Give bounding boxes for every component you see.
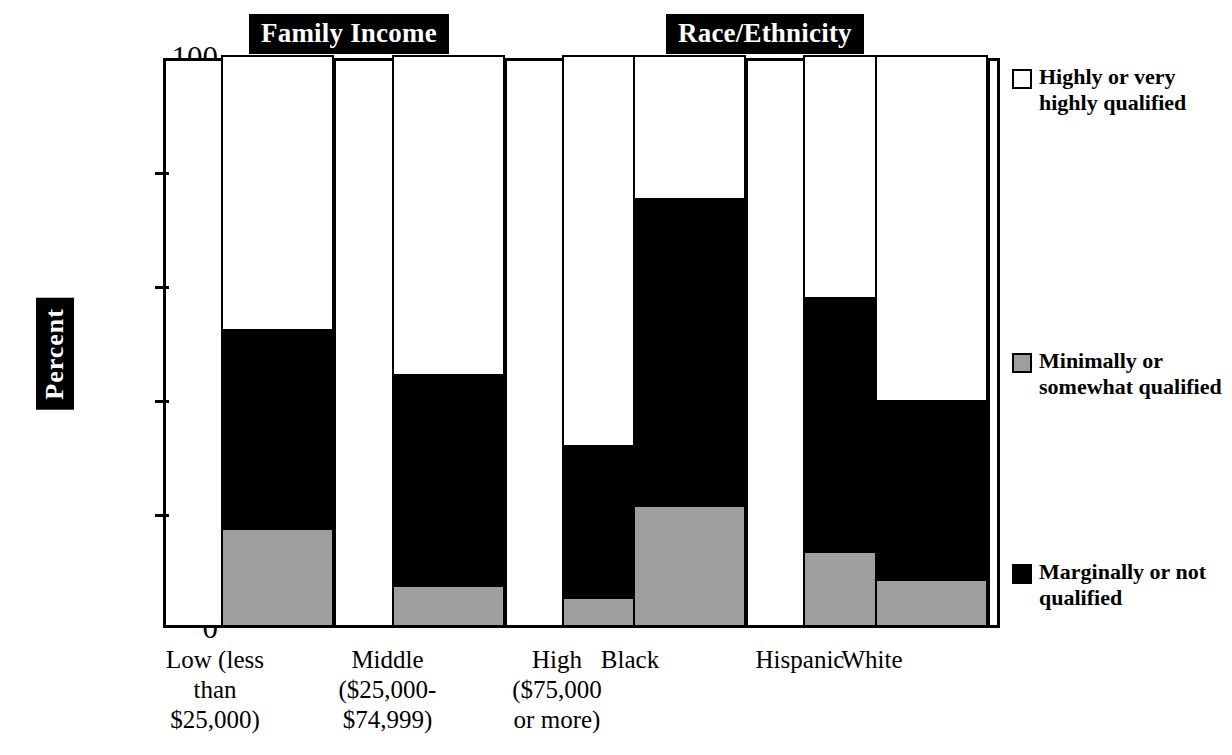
legend-item-marginally-qualified[interactable]: Marginally or not qualified bbox=[1012, 559, 1206, 611]
bar-white[interactable] bbox=[875, 55, 988, 625]
legend-label-line: somewhat qualified bbox=[1039, 374, 1222, 399]
column-divider bbox=[505, 61, 507, 625]
legend-item-minimally-qualified[interactable]: Minimally or somewhat qualified bbox=[1012, 348, 1222, 400]
column-divider bbox=[334, 61, 336, 625]
legend-label-line: highly qualified bbox=[1039, 90, 1186, 115]
segment-minimally-somewhat-qualified bbox=[392, 585, 505, 625]
bar-black[interactable] bbox=[633, 55, 746, 625]
plot-area bbox=[163, 58, 1000, 628]
x-label-line: ($25,000- bbox=[320, 675, 455, 705]
y-axis-title: Percent bbox=[36, 298, 74, 410]
y-tick-mark-40 bbox=[155, 400, 169, 403]
x-label-line: $25,000) bbox=[150, 705, 280, 735]
segment-highly-qualified bbox=[875, 55, 988, 400]
x-label-line: or more) bbox=[492, 705, 622, 735]
x-label-white: White bbox=[807, 645, 937, 675]
legend-swatch-black-icon bbox=[1012, 564, 1032, 584]
segment-minimally-somewhat-qualified bbox=[875, 579, 988, 625]
x-label-line: ($75,000 bbox=[492, 675, 622, 705]
bar-middle-income[interactable] bbox=[392, 55, 505, 625]
x-label-middle-income: Middle ($25,000- $74,999) bbox=[320, 645, 455, 735]
x-label-line: White bbox=[807, 645, 937, 675]
y-tick-mark-80 bbox=[155, 172, 169, 175]
y-tick-mark-60 bbox=[155, 286, 169, 289]
group-banner-family-income: Family Income bbox=[249, 14, 449, 54]
column-divider bbox=[988, 61, 990, 625]
segment-minimally-somewhat-qualified bbox=[633, 505, 746, 625]
legend-label-highly-qualified: Highly or very highly qualified bbox=[1039, 64, 1186, 116]
x-label-line: Low (less bbox=[150, 645, 280, 675]
legend-swatch-white-icon bbox=[1012, 69, 1032, 89]
segment-highly-qualified bbox=[633, 55, 746, 198]
segment-marginally-not-qualified bbox=[633, 198, 746, 506]
legend-label-marginally-qualified: Marginally or not qualified bbox=[1039, 559, 1206, 611]
segment-highly-qualified bbox=[392, 55, 505, 374]
x-label-line: Black bbox=[565, 645, 695, 675]
segment-minimally-somewhat-qualified bbox=[221, 528, 334, 625]
y-tick-mark-20 bbox=[155, 514, 169, 517]
x-label-line: $74,999) bbox=[320, 705, 455, 735]
legend-item-highly-qualified[interactable]: Highly or very highly qualified bbox=[1012, 64, 1186, 116]
legend-swatch-gray-icon bbox=[1012, 353, 1032, 373]
stacked-bar-chart: Family Income Race/Ethnicity Percent 100… bbox=[0, 0, 1232, 755]
bar-low-income[interactable] bbox=[221, 55, 334, 625]
x-label-line: Middle bbox=[320, 645, 455, 675]
column-divider bbox=[746, 61, 748, 625]
legend-label-minimally-qualified: Minimally or somewhat qualified bbox=[1039, 348, 1222, 400]
legend-label-line: qualified bbox=[1039, 585, 1122, 610]
segment-highly-qualified bbox=[221, 55, 334, 329]
legend-label-line: Marginally or not bbox=[1039, 559, 1206, 584]
x-label-line: than bbox=[150, 675, 280, 705]
legend-label-line: Minimally or bbox=[1039, 348, 1163, 373]
legend-label-line: Highly or very bbox=[1039, 64, 1175, 89]
group-banner-race-ethnicity: Race/Ethnicity bbox=[666, 14, 864, 54]
segment-marginally-not-qualified bbox=[875, 400, 988, 580]
segment-marginally-not-qualified bbox=[221, 329, 334, 529]
x-label-black: Black bbox=[565, 645, 695, 675]
x-label-low-income: Low (less than $25,000) bbox=[150, 645, 280, 735]
segment-marginally-not-qualified bbox=[392, 374, 505, 585]
